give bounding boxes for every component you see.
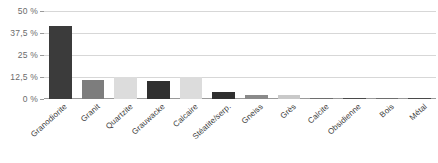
bar[interactable] xyxy=(310,98,333,100)
x-axis-category-label-text: Grès xyxy=(279,100,300,121)
x-axis-category-label: Gneiss xyxy=(240,100,267,126)
x-axis-category-labels: GranodioriteGranitQuartziteGrauwackeCalc… xyxy=(44,100,436,162)
bar[interactable] xyxy=(343,98,366,100)
y-axis-tick-label: 37,5 % xyxy=(10,28,38,38)
bar[interactable] xyxy=(114,77,137,99)
x-axis-category-label-text: Calcite xyxy=(306,100,333,126)
x-axis-category-label-text: Granit xyxy=(79,100,104,124)
bar[interactable] xyxy=(180,77,203,99)
bar-slot xyxy=(278,11,301,99)
bar[interactable] xyxy=(408,98,431,100)
x-axis-category-label: Grès xyxy=(279,100,300,121)
bar-slot xyxy=(180,11,203,99)
y-axis: 50 %37,5 %25 %12,5 %0 % xyxy=(0,11,38,99)
bar[interactable] xyxy=(245,95,268,99)
x-axis-category-label: Calcite xyxy=(306,100,333,126)
bar[interactable] xyxy=(212,92,235,99)
bar-series xyxy=(44,11,436,99)
x-axis-category-label-text: Métal xyxy=(408,100,431,122)
bar[interactable] xyxy=(49,26,72,99)
bar[interactable] xyxy=(147,81,170,99)
bar-slot xyxy=(245,11,268,99)
y-axis-tick-label: 25 % xyxy=(18,50,38,60)
x-axis-category-label: Métal xyxy=(408,100,431,122)
x-axis-category-label: Granit xyxy=(79,100,104,124)
bar-slot xyxy=(408,11,431,99)
x-axis-category-label-text: Bois xyxy=(378,100,398,119)
bar-slot xyxy=(310,11,333,99)
x-axis-category-label: Granodiorite xyxy=(29,100,71,139)
bar[interactable] xyxy=(278,95,301,99)
y-axis-tick-label: 12,5 % xyxy=(10,72,38,82)
bar-chart: 50 %37,5 %25 %12,5 %0 % GranodioriteGran… xyxy=(0,0,438,163)
bar-slot xyxy=(343,11,366,99)
bar-slot xyxy=(49,11,72,99)
bar-slot xyxy=(376,11,399,99)
x-axis-category-label: Bois xyxy=(378,100,398,119)
y-axis-tick-label: 0 % xyxy=(23,94,38,104)
bar[interactable] xyxy=(376,98,399,100)
x-axis-category-label-text: Gneiss xyxy=(240,100,267,126)
x-axis-category-label-text: Calcaire xyxy=(171,100,202,129)
x-axis-category-label-text: Granodiorite xyxy=(29,100,71,139)
bar-slot xyxy=(212,11,235,99)
bar-slot xyxy=(114,11,137,99)
bar[interactable] xyxy=(82,80,105,99)
y-axis-tick-label: 50 % xyxy=(18,6,38,16)
x-axis-category-label: Calcaire xyxy=(171,100,202,129)
bar-slot xyxy=(82,11,105,99)
bar-slot xyxy=(147,11,170,99)
